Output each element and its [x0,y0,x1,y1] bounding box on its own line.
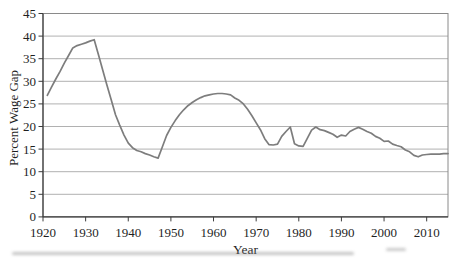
svg-text:15: 15 [23,142,36,157]
scan-shadow-artifact [12,252,354,255]
svg-text:1920: 1920 [30,225,56,240]
svg-text:10: 10 [23,164,36,179]
scan-shadow-artifact [386,248,406,251]
series-line-percent-wage-gap [47,40,448,158]
y-gridlines [43,36,448,194]
svg-text:2000: 2000 [371,225,397,240]
svg-text:35: 35 [23,51,36,66]
svg-text:1930: 1930 [73,225,99,240]
svg-text:40: 40 [23,29,36,44]
x-tick-labels: 1920193019401950196019701980199020002010 [30,217,440,240]
svg-text:0: 0 [30,209,37,224]
svg-text:1990: 1990 [328,225,354,240]
y-axis-title: Percent Wage Gap [6,70,22,166]
svg-text:30: 30 [23,74,36,89]
svg-text:1980: 1980 [286,225,312,240]
svg-text:25: 25 [23,96,36,111]
svg-text:5: 5 [30,187,37,202]
svg-text:20: 20 [23,119,36,134]
svg-text:1960: 1960 [201,225,227,240]
wage-gap-figure: 0510152025303540451920193019401950196019… [0,0,458,259]
wage-gap-chart: 0510152025303540451920193019401950196019… [0,0,458,259]
svg-text:1940: 1940 [115,225,141,240]
svg-text:2010: 2010 [414,225,440,240]
svg-text:1970: 1970 [243,225,269,240]
axes [43,14,448,217]
svg-text:1950: 1950 [158,225,184,240]
plot-border [43,14,448,217]
y-tick-labels: 051015202530354045 [23,6,43,224]
svg-text:45: 45 [23,6,36,21]
